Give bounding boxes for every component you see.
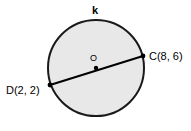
point-c-marker (141, 54, 146, 59)
circle-name-label: k (92, 5, 98, 16)
geometry-figure: k O C(8, 6) D(2, 2) (0, 0, 191, 131)
point-d-marker (48, 83, 53, 88)
point-c-label: C(8, 6) (149, 51, 183, 62)
point-o-center-marker (94, 66, 98, 70)
point-d-label: D(2, 2) (6, 85, 40, 96)
center-point-label: O (90, 54, 97, 63)
circle-diagram-canvas (0, 0, 191, 131)
